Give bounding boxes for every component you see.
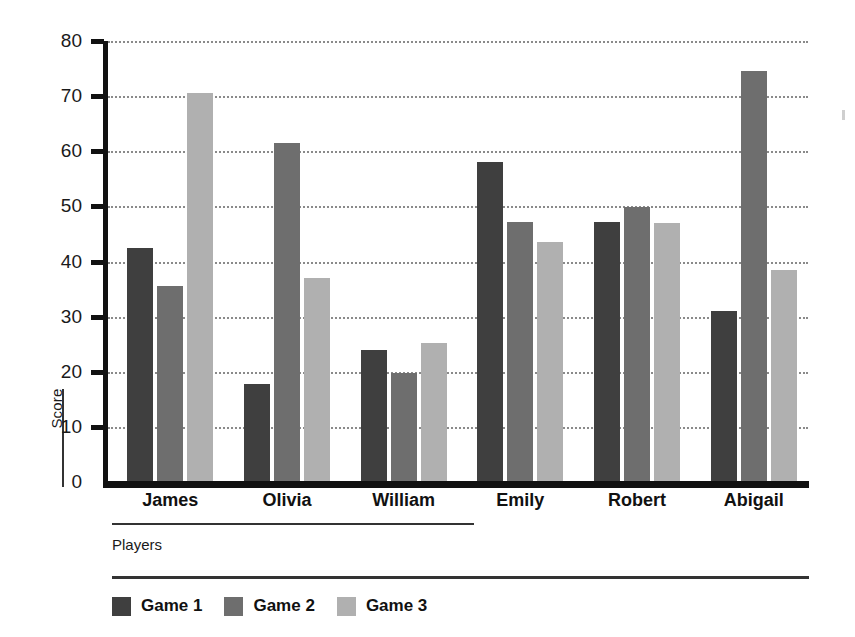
x-axis-tick-label: Olivia: [227, 490, 347, 511]
bar: [654, 223, 680, 482]
y-axis-tick-label: 40: [40, 252, 82, 271]
x-axis-tick-label: Robert: [577, 490, 697, 511]
bar: [477, 162, 503, 482]
x-axis-title: Players: [112, 536, 162, 553]
y-axis-tick-label: 50: [40, 196, 82, 215]
legend: Game 1Game 2Game 3: [112, 596, 427, 616]
bar: [741, 71, 767, 482]
bar-group: [341, 41, 458, 482]
y-axis-tick: [91, 425, 104, 430]
legend-label: Game 3: [366, 596, 427, 616]
legend-item[interactable]: Game 3: [337, 596, 427, 616]
bar-group: [575, 41, 692, 482]
y-axis-tick-label: 30: [40, 307, 82, 326]
y-axis-tick-label: 0: [40, 472, 82, 491]
y-axis-tick-label: 70: [40, 86, 82, 105]
bar: [594, 222, 620, 482]
bar-group: [225, 41, 342, 482]
bar: [244, 384, 270, 482]
bar: [711, 311, 737, 482]
legend-item[interactable]: Game 1: [112, 596, 202, 616]
plot-area: [108, 41, 808, 482]
x-axis-tick-label: Emily: [460, 490, 580, 511]
legend-swatch-icon: [224, 597, 243, 616]
bar: [274, 143, 300, 482]
y-axis-tick: [91, 204, 104, 209]
x-axis-tick-label: Abigail: [694, 490, 814, 511]
bar-group: [691, 41, 808, 482]
bar-chart: Score 01020304050607080 JamesOliviaWilli…: [0, 0, 855, 637]
bar: [507, 222, 533, 482]
x-axis-tick-label: James: [110, 490, 230, 511]
legend-item[interactable]: Game 2: [224, 596, 314, 616]
x-axis-line: [103, 481, 809, 488]
bar: [361, 350, 387, 482]
bar: [391, 373, 417, 482]
y-axis-tick: [91, 260, 104, 265]
bar: [304, 278, 330, 482]
bar-group: [108, 41, 225, 482]
y-axis-tick-label: 60: [40, 141, 82, 160]
y-axis-tick: [91, 94, 104, 99]
y-axis-tick: [91, 315, 104, 320]
y-axis-tick-label: 20: [40, 362, 82, 381]
legend-label: Game 1: [141, 596, 202, 616]
y-axis-tick: [91, 149, 104, 154]
bar: [157, 286, 183, 482]
legend-swatch-icon: [337, 597, 356, 616]
bar: [537, 242, 563, 482]
bar: [127, 248, 153, 482]
x-axis-title-rule: [112, 523, 474, 525]
legend-swatch-icon: [112, 597, 131, 616]
bar: [624, 207, 650, 482]
legend-label: Game 2: [253, 596, 314, 616]
y-axis-tick-label: 80: [40, 31, 82, 50]
bar: [771, 270, 797, 482]
bar-group: [458, 41, 575, 482]
bar: [421, 343, 447, 482]
y-axis-tick: [91, 39, 104, 44]
page-artifact-speck: [842, 110, 845, 120]
y-axis-tick: [91, 370, 104, 375]
y-axis-tick-label: 10: [40, 417, 82, 436]
x-axis-tick-label: William: [344, 490, 464, 511]
legend-rule: [112, 576, 809, 579]
bar: [187, 93, 213, 482]
